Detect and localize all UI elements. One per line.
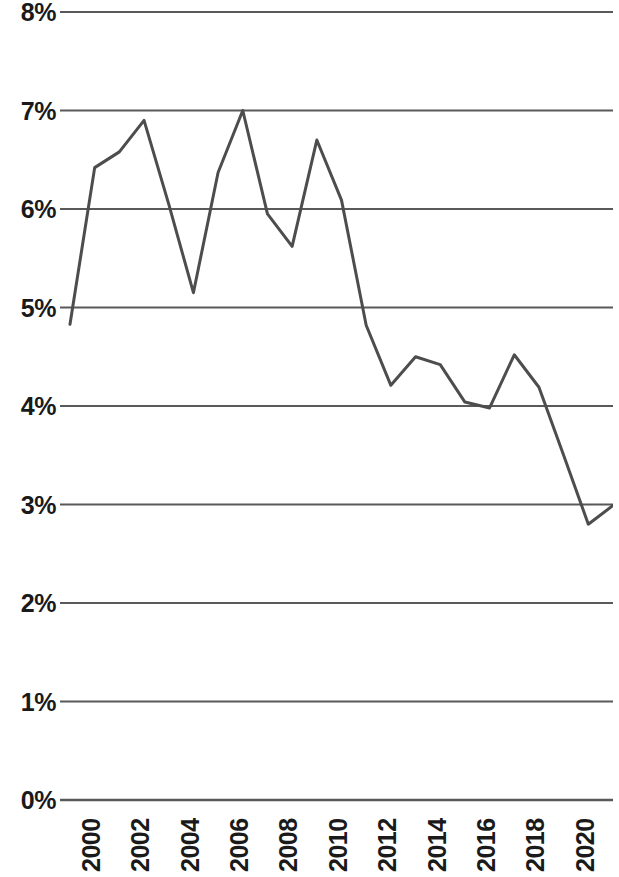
x-tick-label-2020: 2020 — [573, 818, 598, 872]
y-tick-label-6pct: 6% — [4, 197, 56, 222]
x-tick-label-2006: 2006 — [227, 818, 252, 872]
x-tick-label-2016: 2016 — [474, 818, 499, 872]
x-tick-label-2000: 2000 — [79, 818, 104, 872]
x-tick-label-2002: 2002 — [128, 818, 153, 872]
x-tick-label-2008: 2008 — [276, 818, 301, 872]
data-series-layer — [60, 0, 613, 877]
x-tick-label-2010: 2010 — [326, 818, 351, 872]
y-tick-label-4pct: 4% — [4, 394, 56, 419]
plot-area — [60, 0, 613, 877]
y-tick-label-3pct: 3% — [4, 492, 56, 517]
x-tick-label-2012: 2012 — [375, 818, 400, 872]
x-tick-label-2018: 2018 — [523, 818, 548, 872]
y-tick-label-0pct: 0% — [4, 788, 56, 813]
data-line-series-1 — [70, 111, 613, 525]
x-tick-label-2004: 2004 — [178, 818, 203, 872]
y-tick-label-2pct: 2% — [4, 591, 56, 616]
y-tick-label-1pct: 1% — [4, 689, 56, 714]
chart-container: 0%1%2%3%4%5%6%7%8% 200020022004200620082… — [0, 0, 619, 877]
y-tick-label-8pct: 8% — [4, 0, 56, 25]
y-tick-label-7pct: 7% — [4, 98, 56, 123]
y-axis-tick-labels: 0%1%2%3%4%5%6%7%8% — [0, 0, 56, 877]
y-tick-label-5pct: 5% — [4, 295, 56, 320]
x-tick-label-2014: 2014 — [425, 818, 450, 872]
